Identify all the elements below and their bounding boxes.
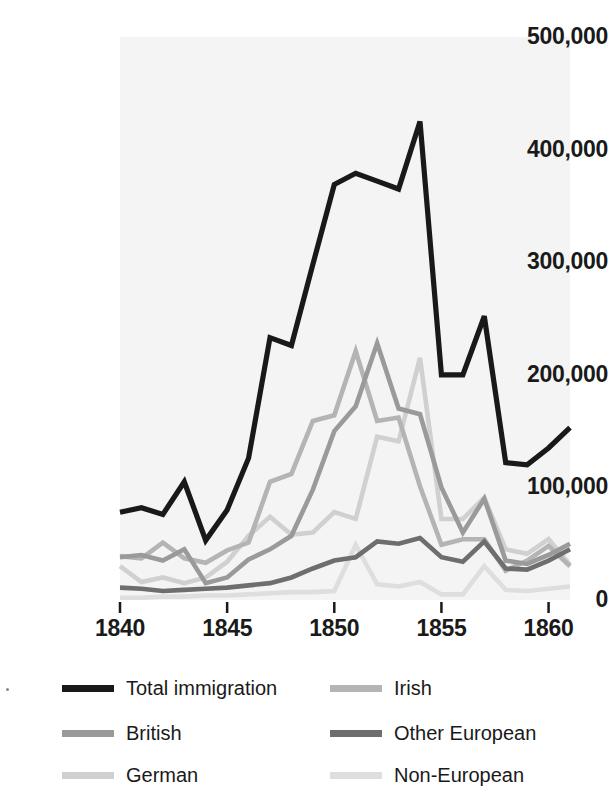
legend-item-label: German (126, 765, 198, 785)
chart-legend: Total immigrationBritishGermanIrishOther… (0, 660, 608, 790)
legend-item-label: Other European (394, 723, 536, 743)
axis-group (120, 602, 549, 613)
legend-item-british[interactable]: British (62, 718, 182, 748)
y-axis-tick-label: 200,000 (500, 363, 608, 386)
line-swatch-icon (62, 730, 114, 737)
line-swatch-icon (330, 730, 382, 737)
line-swatch-icon (62, 685, 114, 692)
immigration-line-chart-figure: 0100,000200,000300,000400,000500,000 184… (0, 0, 608, 796)
line-swatch-icon (330, 685, 382, 692)
x-axis-tick-label: 1855 (401, 617, 481, 640)
y-axis-tick-label: 400,000 (500, 138, 608, 161)
y-axis-tick-label: 500,000 (500, 25, 608, 48)
legend-item-label: Irish (394, 678, 432, 698)
x-axis-tick-label: 1850 (294, 617, 374, 640)
y-axis-tick-label: 0 (500, 588, 608, 611)
line-swatch-icon (62, 772, 114, 779)
x-axis-tick-label: 1860 (509, 617, 589, 640)
x-axis-tick-label: 1840 (80, 617, 160, 640)
x-axis-tick-label: 1845 (187, 617, 267, 640)
legend-item-total-immigration[interactable]: Total immigration (62, 673, 277, 703)
legend-item-german[interactable]: German (62, 760, 198, 790)
legend-item-irish[interactable]: Irish (330, 673, 432, 703)
y-axis-tick-label: 300,000 (500, 250, 608, 273)
legend-item-other-european[interactable]: Other European (330, 718, 536, 748)
line-swatch-icon (330, 772, 382, 779)
legend-item-label: Total immigration (126, 678, 277, 698)
chart-lines-svg (0, 0, 608, 648)
legend-item-non-european[interactable]: Non-European (330, 760, 524, 790)
series-group (120, 121, 570, 597)
legend-item-label: Non-European (394, 765, 524, 785)
legend-item-label: British (126, 723, 182, 743)
y-axis-tick-label: 100,000 (500, 475, 608, 498)
chart-plot-region: 0100,000200,000300,000400,000500,000 184… (0, 0, 608, 648)
